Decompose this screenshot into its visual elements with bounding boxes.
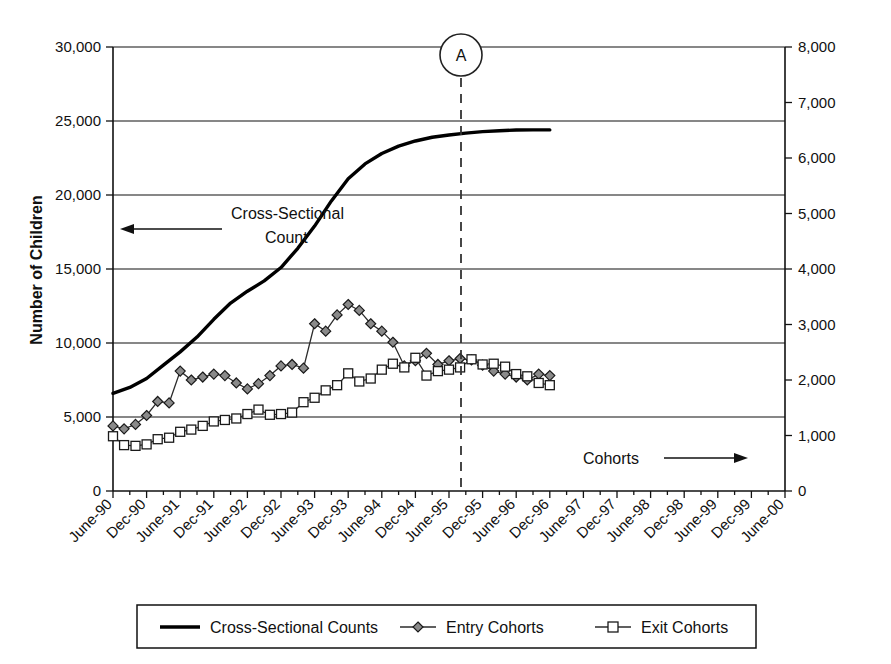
y-tick-label-right: 5,000 [798,205,836,222]
data-point-exit-cohorts [456,363,465,372]
data-point-exit-cohorts [254,405,263,414]
x-tick-labels: June-90Dec-90June-91Dec-91June-92Dec-92J… [65,495,787,545]
y-tick-label: 30,000 [55,38,101,55]
data-point-exit-cohorts [366,374,375,383]
y-tick-label-right: 0 [798,482,806,499]
data-point-entry-cohorts [209,369,219,379]
y-axis-title: Number of Children [28,195,45,344]
data-point-exit-cohorts [232,414,241,423]
x-axis [113,491,785,498]
data-point-exit-cohorts [198,421,207,430]
data-point-exit-cohorts [523,372,532,381]
data-point-exit-cohorts [243,410,252,419]
left-axis: 05,00010,00015,00020,00025,00030,000 [55,38,113,499]
data-point-exit-cohorts [333,381,342,390]
data-point-exit-cohorts [176,427,185,436]
cross-sectional-annotation: Cross-Sectional Count [120,205,344,246]
right-axis: 01,0002,0003,0004,0005,0006,0007,0008,00… [785,38,836,499]
data-point-exit-cohorts [120,441,129,450]
data-point-entry-cohorts [321,326,331,336]
y-tick-label: 25,000 [55,112,101,129]
data-point-entry-cohorts [220,371,230,381]
cohorts-annotation: Cohorts [583,450,748,467]
data-point-exit-cohorts [165,433,174,442]
data-point-exit-cohorts [445,365,454,374]
data-point-exit-cohorts [422,371,431,380]
y-tick-label: 20,000 [55,186,101,203]
data-point-entry-cohorts [198,372,208,382]
data-point-entry-cohorts [545,371,555,381]
y-tick-label-right: 2,000 [798,371,836,388]
y-tick-label-right: 1,000 [798,427,836,444]
legend-label: Exit Cohorts [641,619,728,636]
data-point-exit-cohorts [534,378,543,387]
y-tick-label-right: 7,000 [798,94,836,111]
data-point-entry-cohorts [287,359,297,369]
data-point-exit-cohorts [310,393,319,402]
data-point-exit-cohorts [277,410,286,419]
data-point-exit-cohorts [299,398,308,407]
data-point-entry-cohorts [310,319,320,329]
reference-line-a-group: A [440,34,482,491]
chart-figure: 05,00010,00015,00020,00025,00030,000 01,… [0,0,891,664]
data-point-entry-cohorts [119,424,129,434]
y-tick-label: 15,000 [55,260,101,277]
data-point-entry-cohorts [231,378,241,388]
data-point-exit-cohorts [142,440,151,449]
data-point-exit-cohorts [265,410,274,419]
legend: Cross-Sectional CountsEntry CohortsExit … [137,605,756,648]
data-point-exit-cohorts [321,386,330,395]
data-point-exit-cohorts [344,369,353,378]
data-point-exit-cohorts [153,435,162,444]
series-line-cross-sectional-counts [113,130,550,393]
cross-sectional-annotation-arrow-head [120,224,134,234]
data-point-exit-cohorts [478,360,487,369]
data-point-entry-cohorts [534,369,544,379]
data-point-exit-cohorts [220,415,229,424]
point-a-label: A [456,47,467,64]
y-tick-label: 0 [93,482,101,499]
data-point-exit-cohorts [209,417,218,426]
data-point-exit-cohorts [131,441,140,450]
data-series-layer [108,130,555,450]
data-point-entry-cohorts [455,354,465,364]
legend-label: Entry Cohorts [446,619,544,636]
chart-canvas: 05,00010,00015,00020,00025,00030,000 01,… [0,0,891,664]
cohorts-annotation-arrow-head [734,453,748,463]
legend-label: Cross-Sectional Counts [210,619,378,636]
y-tick-label: 5,000 [63,408,101,425]
data-point-exit-cohorts [377,365,386,374]
legend-swatch-square-icon [608,622,618,632]
data-point-exit-cohorts [467,355,476,364]
data-point-entry-cohorts [108,421,118,431]
data-point-exit-cohorts [109,432,118,441]
data-point-exit-cohorts [411,353,420,362]
data-point-exit-cohorts [288,408,297,417]
cross-sectional-annotation-line2: Count [265,229,308,246]
data-point-entry-cohorts [444,356,454,366]
y-tick-label-right: 3,000 [798,316,836,333]
y-tick-label-right: 4,000 [798,260,836,277]
data-point-entry-cohorts [242,384,252,394]
data-point-entry-cohorts [253,379,263,389]
data-point-exit-cohorts [400,363,409,372]
data-point-exit-cohorts [545,381,554,390]
data-point-exit-cohorts [187,425,196,434]
y-tick-label-right: 8,000 [798,38,836,55]
data-point-entry-cohorts [164,398,174,408]
data-point-exit-cohorts [388,359,397,368]
data-point-exit-cohorts [433,367,442,376]
data-point-exit-cohorts [501,362,510,371]
y-tick-label: 10,000 [55,334,101,351]
cohorts-annotation-label: Cohorts [583,450,639,467]
y-tick-label-right: 6,000 [798,149,836,166]
cross-sectional-annotation-line1: Cross-Sectional [231,205,344,222]
data-point-entry-cohorts [299,363,309,373]
data-point-exit-cohorts [512,370,521,379]
data-point-exit-cohorts [355,377,364,386]
data-point-exit-cohorts [489,359,498,368]
x-tick-label: June-90 [65,495,115,545]
